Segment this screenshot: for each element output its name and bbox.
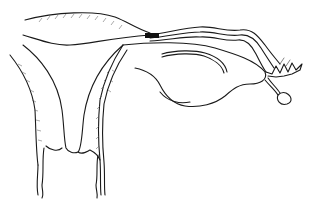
uterine-cavity: [23, 45, 123, 153]
uterine-wall-left: [10, 55, 42, 195]
diagram-svg: [0, 0, 316, 203]
ovarian-ligament: [265, 78, 280, 95]
uterine-wall-right: [96, 45, 127, 195]
ovary: [123, 43, 266, 107]
peritoneal-fold: [25, 13, 150, 33]
cervical-canal: [42, 148, 100, 198]
small-cyst: [277, 93, 291, 105]
anatomical-diagram: [0, 0, 316, 203]
ligature-band: [145, 33, 159, 38]
fallopian-tube: [23, 27, 280, 72]
fimbriae: [266, 58, 302, 77]
